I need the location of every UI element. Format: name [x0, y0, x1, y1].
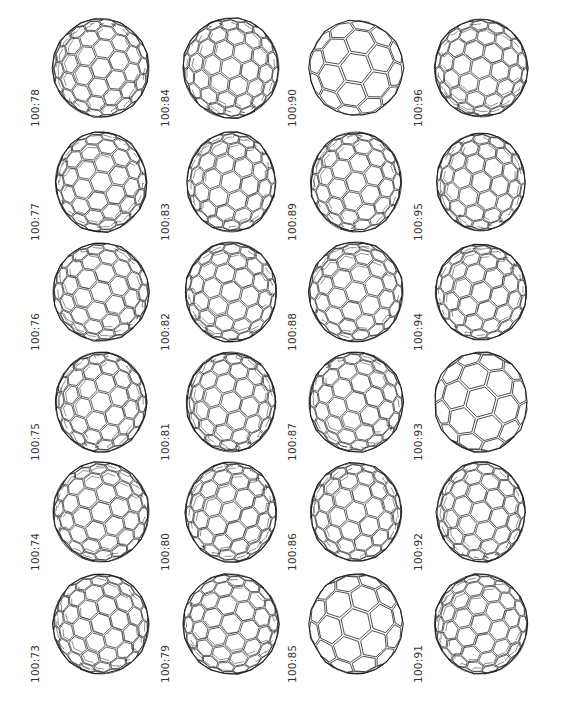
fullerene-cage-wireframe: [183, 574, 279, 674]
cage-ratio-label: 100:94: [413, 313, 424, 351]
fullerene-cage-wireframe: [183, 18, 279, 118]
cage-ratio-label: 100:95: [413, 203, 424, 241]
cage-ratio-label: 100:78: [30, 89, 41, 127]
fullerene-cage-wireframe: [53, 462, 149, 562]
fullerene-cage-wireframe: [308, 574, 404, 674]
fullerene-cage-wireframe: [183, 132, 279, 232]
cage-ratio-label: 100:79: [160, 645, 171, 683]
fullerene-cage-wireframe: [433, 352, 529, 452]
cage-ratio-label: 100:74: [30, 533, 41, 571]
fullerene-cage-wireframe: [53, 18, 149, 118]
cage-ratio-label: 100:86: [287, 533, 298, 571]
cage-ratio-label: 100:76: [30, 313, 41, 351]
fullerene-cage-wireframe: [433, 462, 529, 562]
cage-ratio-label: 100:81: [160, 423, 171, 461]
fullerene-cage-wireframe: [53, 574, 149, 674]
fullerene-cage-wireframe: [308, 132, 404, 232]
fullerene-cage-wireframe: [433, 132, 529, 232]
cage-ratio-label: 100:96: [413, 89, 424, 127]
cage-ratio-label: 100:89: [287, 203, 298, 241]
cage-ratio-label: 100:87: [287, 423, 298, 461]
cage-ratio-label: 100:82: [160, 313, 171, 351]
cage-ratio-label: 100:91: [413, 645, 424, 683]
fullerene-cage-wireframe: [308, 352, 404, 452]
fullerene-cage-wireframe: [183, 462, 279, 562]
cage-ratio-label: 100:77: [30, 203, 41, 241]
cage-ratio-label: 100:92: [413, 533, 424, 571]
cage-ratio-label: 100:90: [287, 89, 298, 127]
cage-structure-grid: 100:78100:84100:90100:96100:77100:83100:…: [0, 0, 563, 714]
cage-ratio-label: 100:75: [30, 423, 41, 461]
cage-ratio-label: 100:73: [30, 645, 41, 683]
cage-ratio-label: 100:93: [413, 423, 424, 461]
fullerene-cage-wireframe: [53, 242, 149, 342]
cage-ratio-label: 100:88: [287, 313, 298, 351]
fullerene-cage-wireframe: [308, 18, 404, 118]
fullerene-cage-wireframe: [183, 242, 279, 342]
fullerene-cage-wireframe: [308, 462, 404, 562]
fullerene-cage-wireframe: [53, 352, 149, 452]
fullerene-cage-wireframe: [183, 352, 279, 452]
cage-ratio-label: 100:80: [160, 533, 171, 571]
cage-ratio-label: 100:83: [160, 203, 171, 241]
fullerene-cage-wireframe: [53, 132, 149, 232]
cage-ratio-label: 100:85: [287, 645, 298, 683]
cage-ratio-label: 100:84: [160, 89, 171, 127]
fullerene-cage-wireframe: [433, 574, 529, 674]
fullerene-cage-wireframe: [433, 242, 529, 342]
fullerene-cage-wireframe: [433, 18, 529, 118]
fullerene-cage-wireframe: [308, 242, 404, 342]
